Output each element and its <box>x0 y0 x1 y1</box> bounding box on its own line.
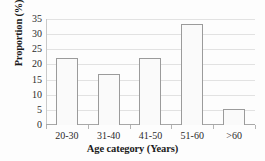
y-tick-label: 15 <box>22 75 42 85</box>
bar[interactable] <box>223 109 245 125</box>
bar[interactable] <box>181 24 203 125</box>
x-tick-mark <box>255 125 256 129</box>
y-tick-label: 0 <box>22 120 42 130</box>
bar-chart: Proportion (%) 05101520253035 20-3031-40… <box>0 0 265 161</box>
bar[interactable] <box>56 58 78 125</box>
x-tick-label: 51-60 <box>171 129 213 143</box>
x-axis-title: Age category (Years) <box>0 143 265 154</box>
bar-slot <box>130 19 172 125</box>
x-tick-label: 31-40 <box>88 129 130 143</box>
bar[interactable] <box>139 58 161 125</box>
x-tick-label: >60 <box>213 129 255 143</box>
x-tick-label: 41-50 <box>130 129 172 143</box>
y-axis-tick-labels: 05101520253035 <box>22 14 42 125</box>
y-tick-label: 10 <box>22 90 42 100</box>
y-tick-label: 5 <box>22 105 42 115</box>
y-tick-label: 25 <box>22 44 42 54</box>
y-tick-label: 20 <box>22 59 42 69</box>
y-tick-label: 35 <box>22 14 42 24</box>
bar-slot <box>213 19 255 125</box>
bar-series <box>46 19 255 125</box>
bar-slot <box>46 19 88 125</box>
x-axis-tick-labels: 20-3031-4041-5051-60>60 <box>46 129 255 143</box>
x-tick-label: 20-30 <box>46 129 88 143</box>
bar-slot <box>88 19 130 125</box>
plot-area <box>46 19 255 125</box>
y-tick-label: 30 <box>22 29 42 39</box>
bar-slot <box>171 19 213 125</box>
bar[interactable] <box>98 74 120 125</box>
